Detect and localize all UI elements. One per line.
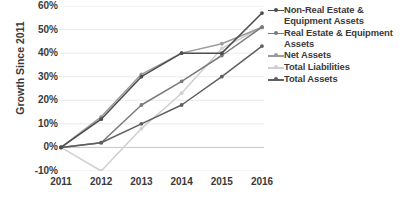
legend-item[interactable]: Non-Real Estate & Equipment Assets — [268, 4, 402, 27]
data-point — [260, 44, 264, 48]
data-point — [99, 117, 103, 121]
series-line — [61, 27, 262, 147]
data-point — [140, 122, 144, 126]
legend-item-label: Non-Real Estate & Equipment Assets — [284, 4, 402, 27]
data-point — [220, 51, 224, 55]
data-point — [59, 146, 63, 150]
data-point — [220, 42, 224, 46]
y-axis-tick-label: 30% — [18, 72, 58, 82]
data-point — [180, 80, 184, 84]
data-point — [220, 47, 224, 51]
legend-item-label: Total Liabilities — [284, 61, 350, 72]
y-axis-tick-label: 10% — [18, 119, 58, 129]
x-axis-tick-labels: 201120122013201420152016 — [59, 176, 264, 192]
legend-item[interactable]: Net Assets — [268, 49, 402, 61]
legend-item[interactable]: Total Liabilities — [268, 61, 402, 73]
x-axis-tick-label: 2013 — [121, 176, 161, 187]
data-point — [260, 11, 264, 15]
x-axis-tick-label: 2016 — [242, 176, 282, 187]
legend-item[interactable]: Real Estate & Equipment Assets — [268, 27, 402, 50]
data-point — [180, 103, 184, 107]
series-line — [61, 46, 262, 147]
series-non-real-estate-equipment-assets — [59, 11, 264, 149]
growth-since-2011-line-chart: Growth Since 2011 60%50%40%30%20%10%0%-1… — [0, 0, 402, 199]
chart-plot-svg — [59, 6, 264, 171]
y-axis-tick-label: 40% — [18, 48, 58, 58]
data-point — [260, 25, 264, 29]
x-axis-tick-label: 2012 — [81, 176, 121, 187]
legend-line-marker-icon — [268, 28, 284, 39]
series-real-estate-equipment-assets — [59, 25, 264, 149]
data-point — [180, 51, 184, 55]
data-point — [140, 75, 144, 79]
series-total-assets — [59, 44, 264, 149]
data-point — [140, 103, 144, 107]
legend-item[interactable]: Total Assets — [268, 73, 402, 85]
series-net-assets — [59, 25, 264, 149]
y-axis-tick-label: 20% — [18, 95, 58, 105]
series-line — [61, 27, 262, 147]
y-axis-tick-labels: 60%50%40%30%20%10%0%-10% — [18, 0, 58, 199]
legend-line-marker-icon — [268, 5, 284, 16]
data-point — [180, 91, 184, 95]
legend-line-marker-icon — [268, 62, 284, 73]
data-point — [220, 75, 224, 79]
x-axis-tick-label: 2015 — [202, 176, 242, 187]
legend-line-marker-icon — [268, 74, 284, 85]
x-axis-tick-label: 2011 — [41, 176, 81, 187]
series-line — [61, 13, 262, 147]
chart-legend: Non-Real Estate & Equipment AssetsReal E… — [268, 4, 402, 85]
legend-item-label: Total Assets — [284, 73, 338, 84]
data-point — [140, 127, 144, 131]
y-axis-tick-label: 50% — [18, 25, 58, 35]
y-axis-tick-label: 0% — [18, 142, 58, 152]
y-axis-tick-label: -10% — [18, 166, 58, 176]
legend-item-label: Real Estate & Equipment Assets — [284, 27, 402, 50]
legend-item-label: Net Assets — [284, 49, 331, 60]
legend-line-marker-icon — [268, 50, 284, 61]
data-point — [99, 141, 103, 145]
plot-area — [59, 6, 264, 171]
x-axis-tick-label: 2014 — [162, 176, 202, 187]
y-axis-tick-label: 60% — [18, 1, 58, 11]
